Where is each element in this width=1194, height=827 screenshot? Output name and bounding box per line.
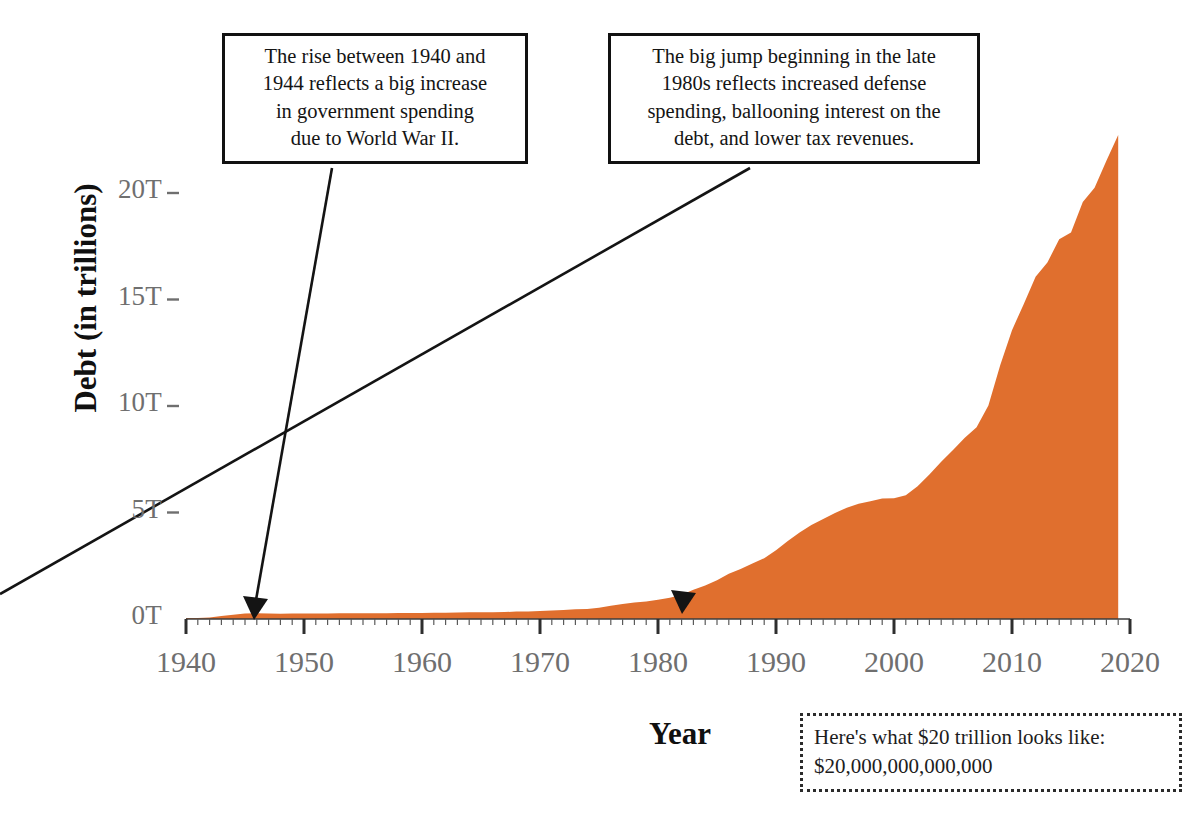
- y-axis-ticks: [167, 193, 179, 513]
- x-axis-tick-label: 1970: [480, 645, 600, 679]
- y-axis-title: Debt (in trillions): [68, 148, 104, 448]
- chart-figure: 0T5T10T15T20T 19401950196019701980199020…: [0, 0, 1194, 827]
- annotation-line: The rise between 1940 and: [235, 43, 515, 70]
- annotation-line: spending, ballooning interest on the: [621, 98, 967, 125]
- footnote-callout: Here's what $20 trillion looks like: $20…: [800, 713, 1182, 792]
- footnote-line: $20,000,000,000,000: [814, 752, 1169, 781]
- annotation-line: in government spending: [235, 98, 515, 125]
- x-axis-tick-label: 2010: [952, 645, 1072, 679]
- x-axis-tick-label: 1980: [598, 645, 718, 679]
- arrow-line-late-1980s: [0, 168, 750, 594]
- annotation-line: 1944 reflects a big increase: [235, 70, 515, 97]
- x-axis-tick-label: 2000: [834, 645, 954, 679]
- x-axis-tick-label: 1950: [244, 645, 364, 679]
- x-axis-title: Year: [600, 716, 760, 752]
- annotation-line: debt, and lower tax revenues.: [621, 125, 967, 152]
- y-axis-tick-label: 20T: [100, 174, 162, 205]
- x-axis-tick-label: 1940: [126, 645, 246, 679]
- x-axis-tick-label: 1960: [362, 645, 482, 679]
- x-axis-group: [186, 619, 1130, 634]
- x-axis-tick-label: 2020: [1070, 645, 1190, 679]
- arrow-line-wwii: [256, 168, 332, 600]
- x-axis-tick-label: 1990: [716, 645, 836, 679]
- y-axis-tick-label: 0T: [100, 600, 162, 631]
- annotation-callout-wwii: The rise between 1940 and 1944 reflects …: [222, 33, 528, 164]
- y-axis-tick-label: 10T: [100, 387, 162, 418]
- footnote-line: Here's what $20 trillion looks like:: [814, 723, 1169, 752]
- annotation-line: 1980s reflects increased defense: [621, 70, 967, 97]
- annotation-line: The big jump beginning in the late: [621, 43, 967, 70]
- chart-canvas: [0, 0, 1194, 827]
- annotation-callout-late-1980s: The big jump beginning in the late 1980s…: [608, 33, 980, 164]
- y-axis-tick-label: 15T: [100, 281, 162, 312]
- annotation-line: due to World War II.: [235, 125, 515, 152]
- y-axis-tick-label: 5T: [100, 494, 162, 525]
